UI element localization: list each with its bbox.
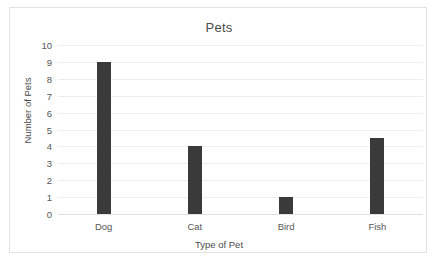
y-axis-tick-label: 9 [47, 56, 52, 67]
bar-group: Fish [332, 45, 423, 214]
bar [370, 138, 384, 214]
y-axis-tick-label: 8 [47, 73, 52, 84]
y-axis-tick-label: 3 [47, 158, 52, 169]
chart-title: Pets [10, 20, 427, 35]
chart-container: Pets Number of Pets 012345678910 DogCatB… [9, 7, 427, 253]
y-axis-title: Number of Pets [22, 56, 33, 166]
bar [97, 62, 111, 214]
x-axis-title: Type of Pet [10, 239, 427, 250]
y-axis-tick-label: 7 [47, 90, 52, 101]
gridline [58, 214, 423, 215]
bar [279, 197, 293, 214]
x-axis-tick-label: Cat [187, 221, 202, 232]
x-axis-tick-label: Dog [95, 221, 112, 232]
x-axis-tick-label: Bird [278, 221, 295, 232]
bar [188, 146, 202, 214]
y-axis-tick-label: 6 [47, 107, 52, 118]
bar-group: Bird [241, 45, 332, 214]
y-axis-tick-label: 5 [47, 124, 52, 135]
bar-group: Dog [58, 45, 149, 214]
y-axis-tick-label: 10 [41, 40, 52, 51]
x-axis-tick-label: Fish [368, 221, 386, 232]
y-axis-tick-label: 0 [47, 209, 52, 220]
plot-area: 012345678910 DogCatBirdFish [58, 45, 423, 214]
y-axis-tick-label: 2 [47, 175, 52, 186]
y-axis-tick-label: 4 [47, 141, 52, 152]
y-axis-tick-label: 1 [47, 192, 52, 203]
bar-group: Cat [149, 45, 240, 214]
